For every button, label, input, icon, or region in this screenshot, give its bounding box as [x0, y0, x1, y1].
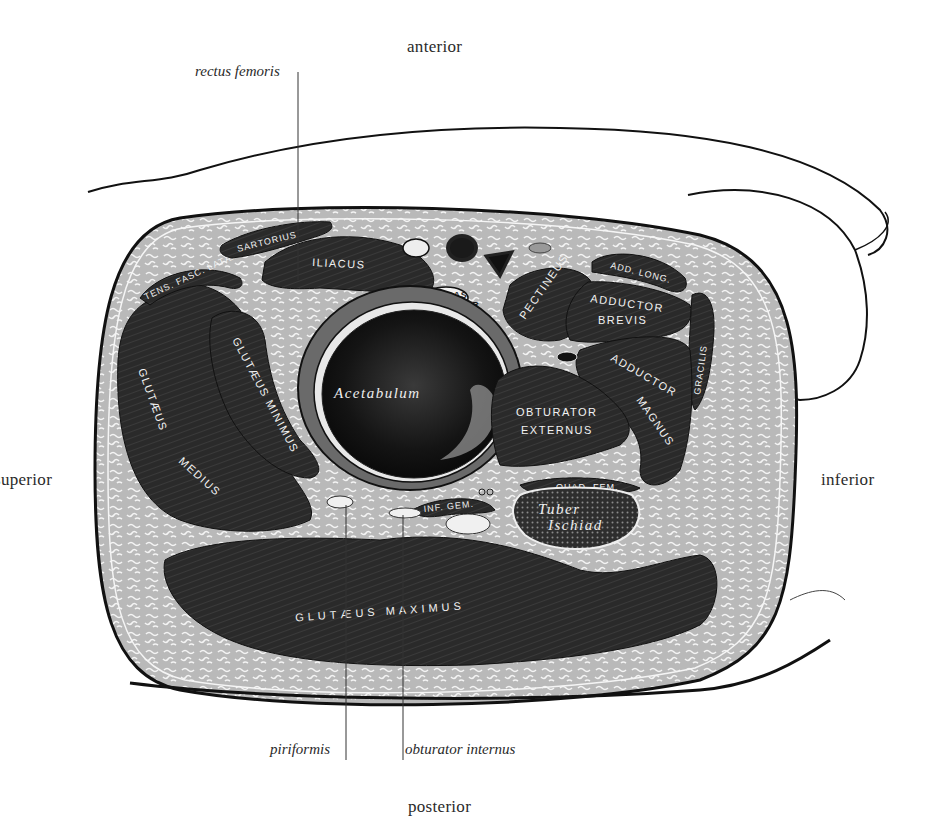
- orientation-anterior: anterior: [407, 37, 462, 57]
- adductor-brevis-label-2: BREVIS: [598, 314, 647, 326]
- orientation-inferior: inferior: [821, 470, 874, 490]
- orientation-posterior: posterior: [408, 797, 471, 817]
- orientation-superior: superior: [0, 470, 52, 490]
- callout-obturator-internus: obturator internus: [405, 741, 515, 758]
- tuber-ischiad-label-2: Ischiad: [547, 517, 603, 533]
- acetabulum-label: Acetabulum: [333, 385, 421, 401]
- callout-piriformis: piriformis: [270, 741, 330, 758]
- obturator-externus-label-1: OBTURATOR: [516, 406, 598, 418]
- hip-cross-section-illustration: GLUTÆUS MAXIMUS GLUTÆUS MEDIUS GLUTÆUS M…: [0, 0, 932, 822]
- obturator-externus-label-2: EXTERNUS: [521, 424, 593, 436]
- callout-rectus-femoris: rectus femoris: [195, 63, 280, 80]
- tuber-ischiad-label-1: Tuber: [538, 501, 581, 517]
